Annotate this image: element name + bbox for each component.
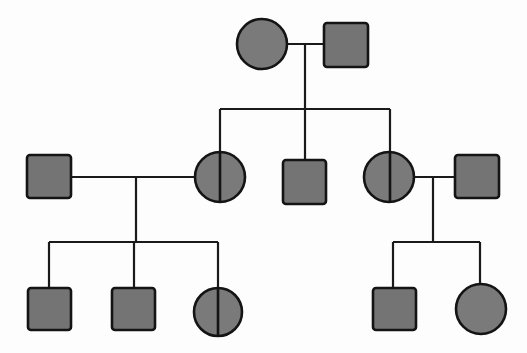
- individual-II-3-male-affected: [283, 160, 326, 204]
- individual-I-2-male-affected: [324, 23, 368, 67]
- individual-III-4-male-affected: [373, 288, 416, 330]
- individual-II-4-female-split: [364, 152, 414, 202]
- generation-III: [28, 284, 506, 336]
- individual-II-1-male-affected: [27, 155, 71, 198]
- individual-III-3-female-split: [194, 288, 242, 336]
- individual-II-2-female-split: [195, 152, 245, 202]
- individual-I-1-female-affected: [237, 19, 287, 69]
- pedigree-canvas: [0, 0, 527, 353]
- individual-III-1-male-affected: [28, 288, 71, 330]
- individual-II-5-male-affected: [455, 155, 499, 198]
- individual-III-2-male-affected: [112, 288, 155, 330]
- pedigree-diagram: Pedigree chart: [0, 0, 527, 353]
- connector-lines: [49, 44, 480, 287]
- individual-III-5-female-affected: [456, 284, 506, 334]
